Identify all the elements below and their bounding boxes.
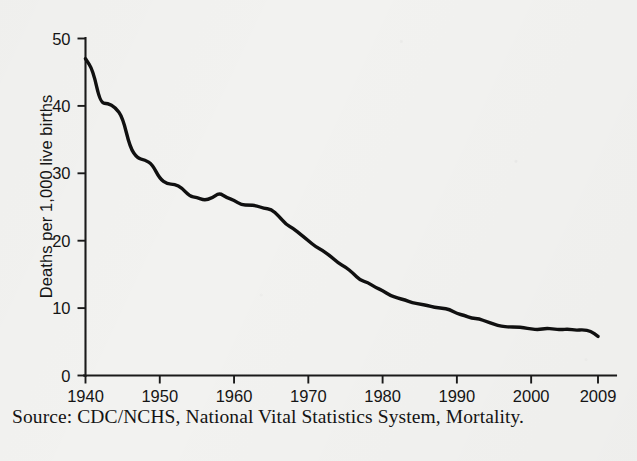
source-note: Source: CDC/NCHS, National Vital Statist…	[12, 406, 524, 428]
x-tick-label: 1970	[290, 387, 327, 405]
y-axis-title: Deaths per 1,000 live births	[37, 77, 56, 317]
infant-mortality-line	[86, 59, 599, 337]
infant-mortality-chart-figure: 01020304050 1940195019601970198019902000…	[0, 0, 637, 461]
x-tick-label: 2000	[513, 387, 550, 405]
y-axis-ticks: 01020304050	[52, 30, 85, 385]
x-axis-ticks: 19401950196019701980199020002009	[67, 376, 616, 405]
x-tick-label: 1980	[364, 387, 401, 405]
chart-plot-area: 01020304050 1940195019601970198019902000…	[0, 0, 637, 461]
x-tick-label: 1990	[439, 387, 476, 405]
x-tick-label: 1950	[141, 387, 178, 405]
x-tick-label: 1960	[216, 387, 253, 405]
chart-axes	[84, 38, 616, 376]
y-tick-label: 50	[52, 30, 70, 48]
x-tick-label: 2009	[580, 387, 617, 405]
x-tick-label: 1940	[67, 387, 104, 405]
y-tick-label: 0	[61, 367, 70, 385]
